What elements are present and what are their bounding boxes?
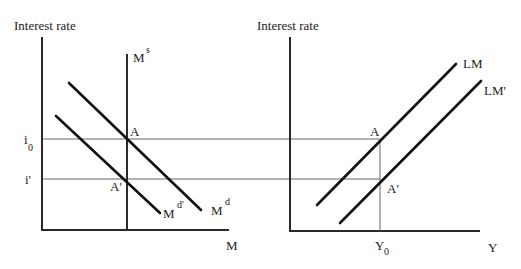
lm-prime-label: LM' bbox=[484, 83, 506, 98]
point-a-left: A bbox=[130, 124, 140, 139]
right-x-axis-label: Y bbox=[488, 240, 498, 255]
money-demand-shifted-sup: d' bbox=[177, 199, 184, 210]
money-market-lm-diagram: Interest rate M M s A A' i 0 i' M d' M d… bbox=[0, 0, 521, 269]
money-supply-label: M bbox=[133, 50, 145, 65]
point-a-prime-left: A' bbox=[110, 179, 122, 194]
money-demand-sup: d bbox=[225, 196, 230, 207]
money-demand-label: M bbox=[211, 203, 223, 218]
point-a-prime-right: A' bbox=[387, 181, 399, 196]
left-y-axis-label: Interest rate bbox=[14, 18, 76, 33]
rate-i-prime-label: i' bbox=[25, 172, 31, 187]
point-a-right: A bbox=[370, 124, 380, 139]
lm-label: LM bbox=[463, 56, 483, 71]
money-demand-shifted-label: M bbox=[163, 206, 175, 221]
output-y0-sub: 0 bbox=[384, 246, 389, 257]
right-y-axis-label: Interest rate bbox=[257, 18, 319, 33]
rate-i0-sub: 0 bbox=[28, 142, 33, 153]
left-x-axis-label: M bbox=[226, 238, 238, 253]
lm-prime-curve bbox=[340, 81, 481, 223]
money-demand-shifted-curve bbox=[56, 116, 160, 213]
money-supply-sup: s bbox=[146, 44, 150, 55]
